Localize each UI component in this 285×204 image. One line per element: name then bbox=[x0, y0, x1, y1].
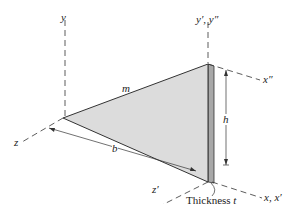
triangular-plate-face bbox=[63, 64, 208, 182]
mass-label: m bbox=[122, 83, 130, 94]
triangular-plate-diagram: y y′, y″ x″ x, x′ z z′ m h b Thickness t bbox=[0, 0, 285, 204]
height-arrow-top bbox=[224, 70, 228, 76]
plate-thickness-edge bbox=[208, 64, 214, 183]
z-axis-label: z bbox=[14, 137, 18, 148]
thickness-symbol: t bbox=[233, 194, 236, 204]
y-axis-label: y bbox=[61, 12, 66, 23]
height-label: h bbox=[223, 114, 229, 125]
x-double-prime-axis-line bbox=[208, 64, 260, 80]
diagram-drawing bbox=[0, 0, 285, 204]
thickness-label: Thickness t bbox=[186, 195, 236, 204]
thickness-word: Thickness bbox=[186, 194, 231, 204]
z-prime-axis-label: z′ bbox=[152, 184, 159, 195]
base-label: b bbox=[112, 143, 118, 154]
x-double-prime-axis-label: x″ bbox=[263, 74, 272, 85]
height-arrow-bottom bbox=[224, 159, 228, 165]
base-arrow-left bbox=[49, 128, 55, 132]
x-axis-label: x, x′ bbox=[264, 192, 282, 203]
y-prime-axis-label: y′, y″ bbox=[196, 14, 218, 25]
